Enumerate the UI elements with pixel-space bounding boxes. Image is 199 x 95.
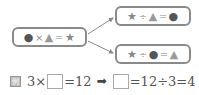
blank-box — [47, 74, 63, 89]
example-row: 例 3 × = 12 ➡ = 12÷3 = 4 — [10, 72, 196, 90]
equals-operator: = — [64, 74, 75, 89]
division-expression: 12÷3 — [141, 74, 177, 89]
example-answer: 4 — [187, 74, 195, 89]
arrow-to-top — [88, 18, 113, 34]
right-arrow-icon: ➡ — [97, 74, 107, 88]
times-operator: × — [35, 74, 46, 89]
example-product: 12 — [75, 74, 92, 89]
equals-operator: = — [176, 74, 187, 89]
example-factor: 3 — [27, 74, 35, 89]
example-label-icon: 例 — [10, 76, 21, 87]
arrow-to-bottom — [88, 41, 113, 53]
blank-box — [113, 74, 129, 89]
equals-operator: = — [130, 74, 141, 89]
